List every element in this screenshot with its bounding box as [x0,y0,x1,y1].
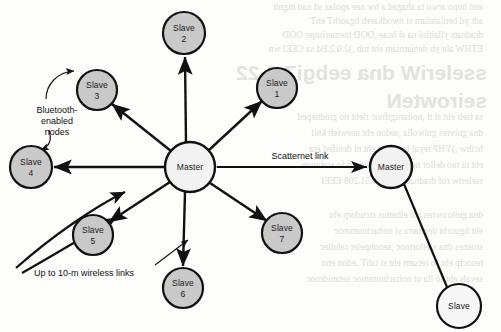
node-slave-2[interactable]: Slave 2 [163,12,205,54]
annotation-line-1: Bluetooth- [36,105,77,115]
node-label-name: Slave [20,157,42,167]
annotation-line-3: nodes [45,127,70,137]
right-piconet-links-group [404,184,447,287]
node-label-name: Slave [266,78,288,88]
annotation-bluetooth-enabled-nodes: Bluetooth- enabled nodes [36,105,77,137]
nodes-group: Slave 2 Slave 1 Slave 3 Slave 4 [10,12,481,328]
node-slave-4[interactable]: Slave 4 [10,146,52,188]
node-label-name: Slave [86,80,108,90]
node-label-number: 2 [182,34,187,44]
node-label-number: 3 [95,91,100,101]
figure-root: and hopo arwo ta ahagad a hw nee apolaa … [0,0,501,332]
node-label-number: 4 [29,168,34,178]
node-slave-7[interactable]: Slave 7 [262,213,302,253]
node-circle [163,268,203,308]
node-label-name: Slave [173,23,195,33]
node-circle [10,146,52,188]
link-master-slave6 [183,192,185,266]
node-label-number: 6 [181,289,186,299]
node-label-name: Slave [82,225,104,235]
node-label-number: 7 [280,234,285,244]
link-master-slave3 [112,104,171,151]
link-master-right-slave-right [404,184,447,287]
link-master-slave1 [209,101,262,150]
node-slave-3[interactable]: Slave 3 [77,70,117,110]
node-master-left[interactable]: Master [165,142,215,192]
node-label-name: Master [378,162,405,172]
node-circle [77,70,117,110]
node-label-name: Master [177,162,204,172]
node-label-number: 5 [91,236,96,246]
node-circle [262,213,302,253]
node-circle [73,215,113,255]
node-circle [163,12,205,54]
node-slave-5[interactable]: Slave 5 [73,215,113,255]
node-label-number: 1 [275,89,280,99]
node-label-name: Slave [271,223,293,233]
node-slave-1[interactable]: Slave 1 [257,68,297,108]
annotation-line-2: enabled [41,116,73,126]
link-master-slave2 [185,57,186,143]
piconet-scatternet-diagram: Slave 2 Slave 1 Slave 3 Slave 4 [0,0,501,332]
node-circle [257,68,297,108]
annotation-wireless-links: Up to 10-m wireless links [34,268,135,278]
leader-bluetooth-to-slave3 [46,71,74,99]
link-master-slave5 [109,182,170,222]
node-slave-right[interactable]: Slave [437,284,481,328]
node-label-name: Slave [448,301,470,311]
link-master-slave7 [210,183,267,221]
node-master-right[interactable]: Master [370,146,412,188]
node-slave-6[interactable]: Slave 6 [163,268,203,308]
node-label-name: Slave [172,278,194,288]
annotation-scatternet-link: Scatternet link [271,151,329,161]
